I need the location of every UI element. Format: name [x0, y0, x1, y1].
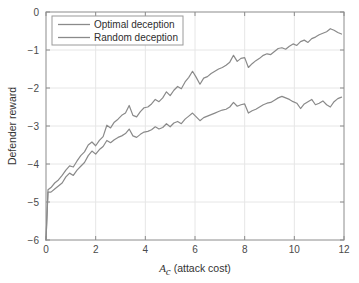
x-tick-label: 8: [242, 244, 248, 255]
x-tick-label: 12: [338, 244, 350, 255]
chart-legend[interactable]: Optimal deceptionRandom deception: [52, 16, 183, 45]
y-tick-label: −4: [28, 159, 40, 170]
x-tick-label: 4: [143, 244, 149, 255]
x-axis-rest: (attack cost): [171, 262, 231, 274]
y-axis-title: Defender reward: [6, 87, 18, 165]
x-axis-title: Ac (attack cost): [158, 262, 231, 277]
y-tick-label: −5: [28, 197, 40, 208]
legend-label-1: Optimal deception: [94, 19, 175, 30]
series-line-1: [46, 29, 342, 240]
y-tick-label: −2: [28, 83, 40, 94]
y-tick-label: 0: [33, 7, 39, 18]
series-line-2: [46, 96, 342, 240]
chart-figure: 0246810120−1−2−3−4−5−6 Defender rewardAc…: [0, 0, 359, 283]
grid-lines: [46, 12, 344, 240]
legend-label-2: Random deception: [94, 32, 178, 43]
y-tick-label: −1: [28, 45, 40, 56]
y-tick-label: −6: [28, 235, 40, 246]
series-lines: [46, 29, 342, 240]
x-tick-label: 2: [93, 244, 99, 255]
x-tick-label: 10: [289, 244, 301, 255]
x-tick-label: 0: [43, 244, 49, 255]
line-chart: 0246810120−1−2−3−4−5−6 Defender rewardAc…: [0, 0, 359, 283]
y-tick-label: −3: [28, 121, 40, 132]
x-tick-label: 6: [192, 244, 198, 255]
